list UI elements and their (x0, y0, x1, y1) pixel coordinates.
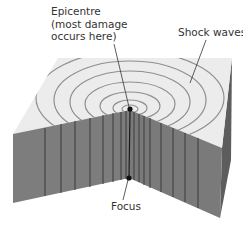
epicentre-label-line-2: (most damage (51, 18, 128, 31)
focus-point (126, 175, 131, 180)
epicentre-label-line-3: occurs here) (51, 30, 128, 43)
shock-waves-label: Shock waves (178, 26, 243, 39)
focus-leader-line (123, 180, 128, 200)
earthquake-diagram: Epicentre (most damage occurs here) Shoc… (0, 0, 243, 226)
epicentre-point (127, 106, 132, 111)
epicentre-label: Epicentre (most damage occurs here) (51, 5, 128, 43)
focus-label: Focus (111, 200, 141, 213)
epicentre-label-line-1: Epicentre (51, 5, 128, 18)
